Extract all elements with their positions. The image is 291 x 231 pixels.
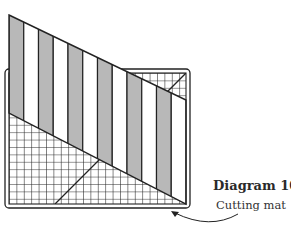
diagram-label: Cutting mat bbox=[216, 198, 286, 212]
diagram-figure bbox=[0, 0, 291, 231]
diagram-title: Diagram 10 bbox=[213, 178, 291, 193]
arrow-icon bbox=[171, 211, 238, 222]
